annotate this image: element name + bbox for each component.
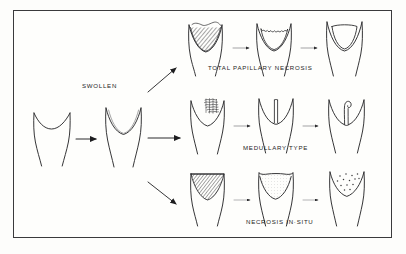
papillary-necrosis-diagram [0,0,406,254]
panel-tpn-3 [327,22,363,76]
label-total-papillary-necrosis: TOTAL PAPILLARY NECROSIS [208,64,313,71]
panel-med-1 [191,101,225,154]
panel-med-3 [329,100,365,153]
panel-nis-1 [191,174,225,226]
arrow-swollen-to-bottom [148,182,176,204]
label-necrosis-in-situ: NECROSIS IN·SITU [246,218,314,225]
label-swollen: SWOLLEN [82,82,117,89]
arrow-swollen-to-top [148,68,176,92]
calcification-dots [337,173,360,191]
panel-nis-3 [330,172,365,226]
medullary-necrosis-patch [205,99,219,114]
figure-page: SWOLLEN TOTAL PAPILLARY NECROSIS MEDULLA… [0,0,406,254]
swollen-papilla [106,108,142,167]
normal-papilla [34,113,70,166]
label-medullary-type: MEDULLARY TYPE [243,144,308,151]
